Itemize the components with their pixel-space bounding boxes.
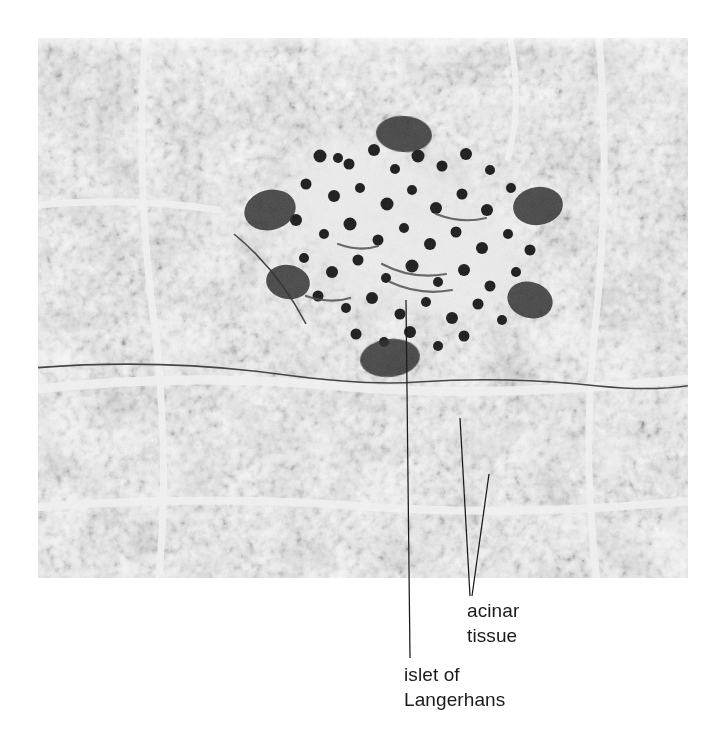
micrograph-canvas <box>38 38 688 578</box>
micrograph-plate <box>38 38 688 578</box>
figure-root: acinar tissue islet of Langerhans <box>0 0 724 750</box>
label-acinar-tissue: acinar tissue <box>467 598 519 648</box>
label-acinar-line-1: acinar <box>467 598 519 623</box>
label-islet-of-langerhans: islet of Langerhans <box>404 662 505 712</box>
label-islet-line-2: Langerhans <box>404 687 505 712</box>
label-acinar-line-2: tissue <box>467 623 519 648</box>
plate-edge-highlight <box>38 38 688 52</box>
film-grain <box>38 38 688 578</box>
label-islet-line-1: islet of <box>404 662 505 687</box>
